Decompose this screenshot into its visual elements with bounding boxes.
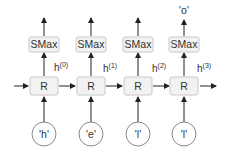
- input-char: 'l': [181, 128, 187, 140]
- rnn-cell-label: R: [134, 80, 142, 92]
- input-char: 'l': [135, 128, 141, 140]
- input-char: 'h': [39, 128, 49, 140]
- rnn-cell-label: R: [180, 80, 188, 92]
- rnn-diagram: R SMax h(0) 'h' R SMax h(1) 'e' R SMax h…: [0, 0, 227, 160]
- hidden-state-label: h(3): [197, 62, 211, 74]
- softmax-label: SMax: [171, 38, 199, 50]
- rnn-cell-label: R: [87, 80, 95, 92]
- column-3: R SMax h(3) 'o' 'l': [169, 4, 211, 146]
- hidden-state-label: h(0): [54, 61, 68, 73]
- input-char: 'e': [86, 128, 96, 140]
- output-char: 'o': [179, 4, 189, 16]
- softmax-label: SMax: [125, 38, 153, 50]
- hidden-state-label: h(1): [103, 62, 117, 74]
- softmax-label: SMax: [78, 38, 106, 50]
- column-0: R SMax h(0) 'h': [29, 18, 68, 146]
- column-2: R SMax h(2) 'l': [123, 18, 166, 146]
- softmax-label: SMax: [31, 38, 59, 50]
- hidden-state-label: h(2): [152, 62, 166, 74]
- column-1: R SMax h(1) 'e': [76, 18, 117, 146]
- rnn-cell-label: R: [40, 80, 48, 92]
